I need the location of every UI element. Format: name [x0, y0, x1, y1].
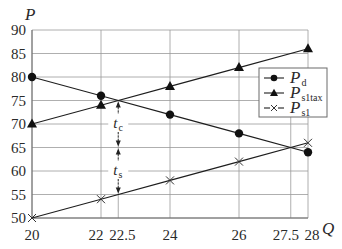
x-tick-label: 26 — [232, 227, 248, 243]
x-tick-label: 22.5 — [109, 227, 135, 243]
circle-marker-icon — [235, 129, 243, 137]
circle-marker-icon — [97, 92, 105, 100]
circle-marker-icon — [166, 110, 174, 118]
y-tick-label: 55 — [11, 187, 26, 203]
arrowhead-down-icon — [116, 141, 121, 147]
y-tick-label: 60 — [11, 163, 26, 179]
circle-marker-icon — [28, 73, 36, 81]
circle-marker-icon — [304, 148, 312, 156]
x-axis-label: Q — [322, 219, 334, 238]
y-tick-label: 90 — [11, 22, 26, 38]
arrowhead-up-icon — [116, 102, 121, 108]
y-tick-label: 85 — [11, 46, 26, 62]
arrowhead-up-icon — [116, 149, 121, 155]
grid-lines — [32, 30, 308, 218]
y-axis-label: P — [24, 5, 35, 24]
circle-marker-icon — [271, 75, 278, 82]
x-tick-label: 27.5 — [273, 227, 299, 243]
x-tick-label: 20 — [25, 227, 40, 243]
supply-demand-tax-chart: tcts 505560657075808590202222.5242627.52… — [0, 0, 342, 249]
x-tick-label: 24 — [163, 227, 179, 243]
y-tick-label: 50 — [11, 210, 26, 226]
y-tick-label: 75 — [11, 93, 26, 109]
y-tick-label: 65 — [11, 140, 26, 156]
triangle-marker-icon — [303, 43, 313, 52]
arrowhead-down-icon — [116, 188, 121, 194]
y-tick-label: 70 — [11, 116, 26, 132]
legend: PdPs1taxPs1 — [259, 68, 327, 118]
x-tick-label: 22 — [89, 227, 104, 243]
x-tick-label: 28 — [305, 227, 320, 243]
y-tick-label: 80 — [11, 69, 26, 85]
